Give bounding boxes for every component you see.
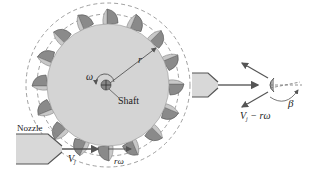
jet-velocity-label: Vj (68, 153, 76, 165)
omega-label: ω (86, 71, 93, 82)
bucket (98, 145, 113, 161)
bucket (168, 80, 184, 95)
bucket (103, 9, 118, 25)
bucket (32, 75, 48, 90)
angle-label: β (287, 97, 294, 109)
relative-jet-detail (192, 63, 302, 107)
relative-velocity-label: Vj − rω (240, 110, 270, 122)
nozzle-label: Nozzle (17, 123, 42, 133)
shaft-label: Shaft (118, 95, 139, 106)
radius-label: r (138, 54, 142, 65)
bucket-speed-label: rω (114, 156, 124, 166)
pelton-wheel-diagram: Shaft ω r Nozzle Vj rω β Vj − rω (0, 0, 323, 172)
